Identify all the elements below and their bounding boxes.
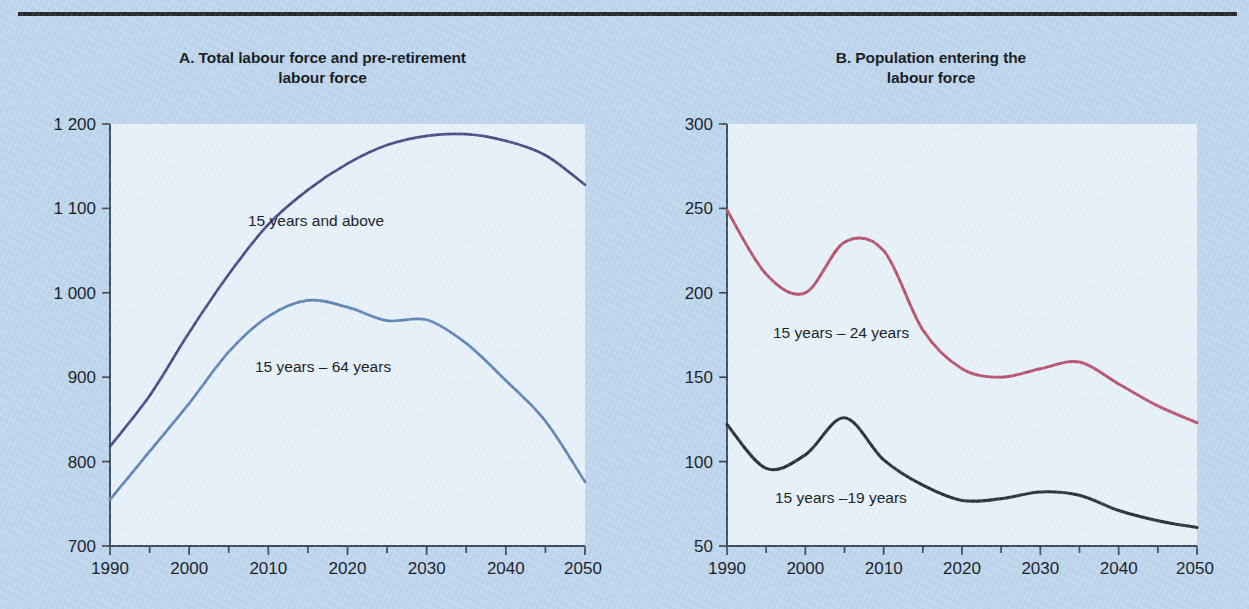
panel-a-ytick-2: 1 000 xyxy=(53,284,96,303)
panel-b-ytick-4: 100 xyxy=(685,453,713,472)
panel-b-xtick-5: 2040 xyxy=(1100,559,1138,578)
panel-a-y-ticks xyxy=(102,124,110,546)
panel-b-y-ticks xyxy=(719,124,727,546)
panel-a-ytick-0: 1 200 xyxy=(53,115,96,134)
panel-a-plot-background xyxy=(110,124,585,546)
panel-a-xtick-2: 2010 xyxy=(249,559,287,578)
panel-b-series-label-1: 15 years –19 years xyxy=(775,489,907,506)
panel-b-ytick-2: 200 xyxy=(685,284,713,303)
panel-b-x-ticks xyxy=(727,546,1197,555)
panel-a-ytick-4: 800 xyxy=(68,453,96,472)
panel-a-xtick-0: 1990 xyxy=(91,559,129,578)
figure-container: A. Total labour force and pre-retirement… xyxy=(0,0,1249,609)
panel-b-xtick-6: 2050 xyxy=(1176,559,1214,578)
panel-b: B. Population entering the labour force … xyxy=(625,0,1249,609)
panel-a-xtick-4: 2030 xyxy=(408,559,446,578)
panel-b-xtick-0: 1990 xyxy=(708,559,746,578)
panel-a-series-label-0: 15 years and above xyxy=(248,212,384,229)
panel-b-xtick-4: 2030 xyxy=(1021,559,1059,578)
panel-b-xtick-1: 2000 xyxy=(786,559,824,578)
panel-b-xtick-3: 2020 xyxy=(943,559,981,578)
panel-b-series-label-0: 15 years – 24 years xyxy=(773,324,909,341)
panel-a-xtick-5: 2040 xyxy=(487,559,525,578)
panel-a-series-label-1: 15 years – 64 years xyxy=(255,358,391,375)
panel-b-ytick-3: 150 xyxy=(685,368,713,387)
panel-a-ytick-3: 900 xyxy=(68,368,96,387)
panel-b-plot: 300 250 200 150 100 50 1990 2000 2010 20… xyxy=(625,0,1249,609)
panel-a-xtick-6: 2050 xyxy=(564,559,602,578)
panel-a-plot: 1 200 1 100 1 000 900 800 700 1990 2000 … xyxy=(0,0,625,609)
panel-b-ytick-1: 250 xyxy=(685,199,713,218)
panel-a-xtick-1: 2000 xyxy=(170,559,208,578)
panel-a-ytick-1: 1 100 xyxy=(53,199,96,218)
panel-a-x-ticks xyxy=(110,546,585,555)
panel-a-ytick-5: 700 xyxy=(68,537,96,556)
panel-b-xtick-2: 2010 xyxy=(865,559,903,578)
panel-b-ytick-5: 50 xyxy=(694,537,713,556)
panel-b-ytick-0: 300 xyxy=(685,115,713,134)
panel-a-xtick-3: 2020 xyxy=(329,559,367,578)
panel-a: A. Total labour force and pre-retirement… xyxy=(0,0,625,609)
